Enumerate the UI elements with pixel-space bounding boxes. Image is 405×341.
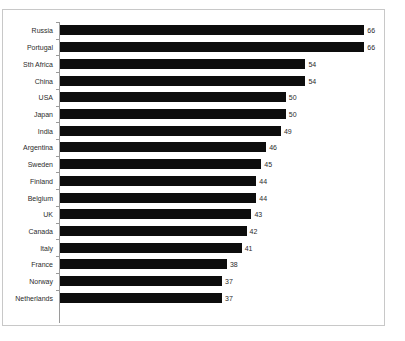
category-label: Japan — [34, 110, 53, 117]
category-label: Italy — [40, 244, 53, 251]
bar — [60, 76, 305, 86]
category-label: Canada — [28, 227, 53, 234]
category-label: Belgium — [28, 194, 53, 201]
category-label: USA — [39, 94, 53, 101]
bar-value-label: 46 — [269, 144, 277, 151]
axis-tick — [56, 139, 59, 140]
bar — [60, 243, 242, 253]
axis-tick — [56, 239, 59, 240]
axis-tick — [56, 39, 59, 40]
bar-value-label: 43 — [254, 211, 262, 218]
bar-row: Belgium44 — [59, 189, 383, 206]
bar-row: Sweden45 — [59, 156, 383, 173]
bar — [60, 293, 222, 303]
axis-tick — [56, 72, 59, 73]
bar — [60, 25, 364, 35]
bar-value-label: 66 — [367, 27, 375, 34]
bar-value-label: 37 — [225, 294, 233, 301]
axis-tick — [56, 22, 59, 23]
axis-tick — [56, 106, 59, 107]
bar-value-label: 38 — [230, 261, 238, 268]
bar-value-label: 54 — [308, 77, 316, 84]
category-label: India — [38, 127, 53, 134]
bar-row: France38 — [59, 256, 383, 273]
bar-value-label: 41 — [245, 244, 253, 251]
bar — [60, 142, 266, 152]
bar — [60, 209, 251, 219]
bar — [60, 126, 281, 136]
bar-row: Finland44 — [59, 172, 383, 189]
bar-row: USA50 — [59, 89, 383, 106]
category-label: Sweden — [28, 161, 53, 168]
bar — [60, 259, 227, 269]
axis-tick — [56, 156, 59, 157]
bar-rows: Russia66Portugal66Sth Africa54China54USA… — [59, 22, 383, 323]
bar-row: UK43 — [59, 206, 383, 223]
bar-row: Russia66 — [59, 22, 383, 39]
bar — [60, 59, 305, 69]
bar-value-label: 49 — [284, 127, 292, 134]
bar-value-label: 66 — [367, 44, 375, 51]
bar-row: Canada42 — [59, 223, 383, 240]
chart-frame: Russia66Portugal66Sth Africa54China54USA… — [2, 9, 385, 326]
bar-value-label: 37 — [225, 278, 233, 285]
bar — [60, 159, 261, 169]
bar-row: China54 — [59, 72, 383, 89]
axis-tick — [56, 223, 59, 224]
bar-value-label: 54 — [308, 60, 316, 67]
bar — [60, 193, 256, 203]
category-label: Netherlands — [15, 294, 53, 301]
bar — [60, 109, 286, 119]
bar — [60, 42, 364, 52]
category-label: Russia — [32, 27, 53, 34]
bar-row: India49 — [59, 122, 383, 139]
axis-tick — [56, 55, 59, 56]
bar-value-label: 45 — [264, 161, 272, 168]
bar-row: Argentina46 — [59, 139, 383, 156]
axis-tick — [56, 206, 59, 207]
category-label: Finland — [30, 177, 53, 184]
category-label: UK — [43, 211, 53, 218]
axis-tick — [56, 122, 59, 123]
bar-value-label: 50 — [289, 110, 297, 117]
axis-tick — [56, 273, 59, 274]
bar-value-label: 42 — [250, 227, 258, 234]
bar-row: Norway37 — [59, 273, 383, 290]
bar — [60, 276, 222, 286]
bar-row: Netherlands37 — [59, 290, 383, 307]
bar-value-label: 44 — [259, 177, 267, 184]
bar-value-label: 44 — [259, 194, 267, 201]
category-label: Norway — [29, 278, 53, 285]
bar-row: Portugal66 — [59, 39, 383, 56]
bar — [60, 226, 247, 236]
category-label: China — [35, 77, 53, 84]
axis-tick — [56, 189, 59, 190]
axis-tick — [56, 89, 59, 90]
axis-tick — [56, 172, 59, 173]
category-label: Sth Africa — [23, 60, 53, 67]
bar — [60, 176, 256, 186]
bar — [60, 92, 286, 102]
bar-row: Japan50 — [59, 106, 383, 123]
bar-value-label: 50 — [289, 94, 297, 101]
axis-tick — [56, 256, 59, 257]
plot-area: Russia66Portugal66Sth Africa54China54USA… — [59, 22, 383, 323]
category-label: Argentina — [23, 144, 53, 151]
category-label: Portugal — [27, 44, 53, 51]
bar-row: Sth Africa54 — [59, 55, 383, 72]
axis-tick — [56, 290, 59, 291]
category-label: France — [31, 261, 53, 268]
bar-row: Italy41 — [59, 239, 383, 256]
